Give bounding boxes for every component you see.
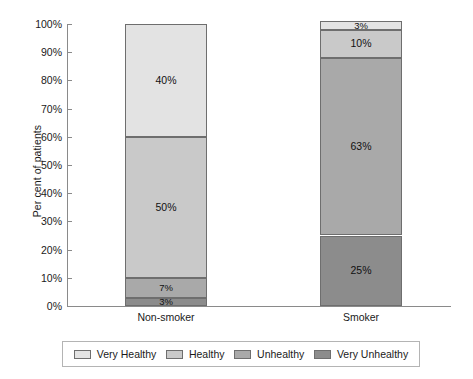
y-tick-mark (67, 221, 72, 222)
y-tick-mark (67, 193, 72, 194)
y-tick-mark (67, 250, 72, 251)
y-tick-mark (67, 24, 72, 25)
category-label-non-smoker: Non-smoker (96, 311, 236, 323)
bar-segment-smoker-very-healthy[interactable]: 3% (320, 21, 402, 29)
y-tick-mark (67, 109, 72, 110)
legend-label: Very Healthy (97, 349, 157, 360)
legend-swatch-icon (166, 350, 183, 359)
y-tick-mark (67, 278, 72, 279)
legend-item-healthy[interactable]: Healthy (166, 349, 225, 360)
chart-legend: Very Healthy Healthy Unhealthy Very Unhe… (62, 341, 420, 367)
y-axis-title: Per cent of patients (31, 71, 43, 271)
bar-segment-non-smoker-very-unhealthy[interactable]: 3% (125, 298, 207, 306)
legend-label: Unhealthy (257, 349, 304, 360)
bar-segment-non-smoker-unhealthy[interactable]: 7% (125, 278, 207, 298)
y-tick-90: 90% (0, 52, 72, 53)
segment-value-label: 7% (159, 282, 173, 293)
bar-segment-non-smoker-healthy[interactable]: 50% (125, 137, 207, 278)
legend-item-very-unhealthy[interactable]: Very Unhealthy (314, 349, 408, 360)
stacked-bar-chart: Per cent of patients 100% 90% 80% 70% 60… (0, 0, 473, 379)
bar-segment-smoker-very-unhealthy[interactable]: 25% (320, 236, 402, 307)
y-tick-mark (67, 80, 72, 81)
segment-value-label: 10% (350, 38, 371, 49)
category-label-smoker: Smoker (291, 311, 431, 323)
y-tick-label: 60% (16, 132, 62, 142)
y-tick-label: 10% (16, 273, 62, 283)
y-tick-label: 50% (16, 160, 62, 170)
y-tick-label: 30% (16, 216, 62, 226)
y-tick-mark (67, 306, 72, 307)
y-tick-30: 30% (0, 221, 72, 222)
y-tick-80: 80% (0, 80, 72, 81)
y-tick-label: 80% (16, 75, 62, 85)
y-tick-label: 0% (16, 301, 62, 311)
y-tick-40: 40% (0, 193, 72, 194)
legend-swatch-icon (74, 350, 91, 359)
bar-segment-smoker-unhealthy[interactable]: 63% (320, 58, 402, 236)
y-tick-100: 100% (0, 24, 72, 25)
y-tick-label: 70% (16, 104, 62, 114)
segment-value-label: 63% (350, 141, 371, 152)
legend-swatch-icon (234, 350, 251, 359)
y-tick-0: 0% (0, 306, 72, 307)
y-tick-label: 40% (16, 188, 62, 198)
x-axis-line (67, 306, 451, 307)
y-tick-50: 50% (0, 165, 72, 166)
y-tick-10: 10% (0, 278, 72, 279)
y-tick-label: 90% (16, 47, 62, 57)
legend-label: Very Unhealthy (337, 349, 408, 360)
y-tick-label: 100% (16, 19, 62, 29)
segment-value-label: 40% (155, 75, 176, 86)
segment-value-label: 3% (159, 296, 173, 307)
y-tick-label: 20% (16, 245, 62, 255)
y-tick-mark (67, 137, 72, 138)
y-tick-mark (67, 52, 72, 53)
legend-item-unhealthy[interactable]: Unhealthy (234, 349, 304, 360)
legend-swatch-icon (314, 350, 331, 359)
legend-item-very-healthy[interactable]: Very Healthy (74, 349, 157, 360)
y-tick-mark (67, 165, 72, 166)
y-tick-70: 70% (0, 109, 72, 110)
y-tick-60: 60% (0, 137, 72, 138)
y-tick-20: 20% (0, 250, 72, 251)
segment-value-label: 25% (350, 265, 371, 276)
bar-segment-smoker-healthy[interactable]: 10% (320, 30, 402, 58)
bar-segment-non-smoker-very-healthy[interactable]: 40% (125, 24, 207, 137)
legend-label: Healthy (189, 349, 225, 360)
segment-value-label: 50% (155, 202, 176, 213)
